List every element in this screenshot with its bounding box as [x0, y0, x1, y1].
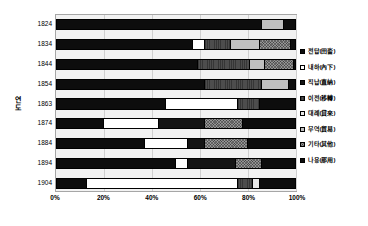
bar-segment-nayong [248, 138, 296, 149]
bar-segment-jeondap [56, 118, 104, 129]
stacked-bar [56, 98, 296, 109]
legend-swatch-nayong [300, 158, 305, 163]
stacked-bar [56, 59, 296, 70]
bar-segment-naeha [104, 118, 159, 129]
y-axis-tick-label: 1854 [24, 80, 52, 87]
bar-segment-muyeok [262, 19, 284, 30]
bar-segment-daerae [253, 178, 260, 189]
x-axis-tick-label: 60% [194, 194, 207, 201]
x-axis-tick-label: 100% [289, 194, 306, 201]
bar-segment-nayong [260, 98, 296, 109]
legend-swatch-jeondap [300, 49, 305, 54]
bar-segment-nayong [289, 79, 296, 90]
bar-segment-naeha [176, 158, 188, 169]
bar-segment-jeondap [56, 138, 145, 149]
bar-segment-ijeon [198, 59, 251, 70]
chart-container: 연 도 182418341844185418631874188418941904… [0, 0, 368, 226]
bar-segment-gita [260, 39, 291, 50]
legend-item-ijeon: 이전(移轉) [300, 91, 366, 107]
stacked-bar [56, 79, 296, 90]
bar-row [56, 35, 296, 55]
bar-row [56, 114, 296, 134]
y-axis-tick-label: 1824 [24, 20, 52, 27]
legend-swatch-jiknap [300, 80, 305, 85]
x-axis-tick-label: 20% [97, 194, 110, 201]
y-axis-tick-label: 1904 [24, 179, 52, 186]
bar-row [56, 173, 296, 193]
bar-segment-naeha [193, 39, 205, 50]
bar-segment-naeha [145, 138, 188, 149]
bar-segment-jiknap [188, 158, 236, 169]
legend-swatch-naeha [300, 65, 305, 70]
legend-item-muyeok: 무역(貿易) [300, 122, 366, 138]
gridline [296, 15, 297, 191]
y-axis-tick-label: 1874 [24, 119, 52, 126]
bar-segment-jeondap [56, 158, 176, 169]
bar-segment-nayong [291, 39, 296, 50]
bar-segment-nayong [260, 178, 296, 189]
bar-segment-nayong [284, 19, 296, 30]
legend: 전답(田畓)내하(內下)직납(直納)이전(移轉)대례(貸來)무역(貿易)기타(其… [300, 44, 366, 168]
legend-label-daerae: 대례(貸來) [308, 110, 336, 117]
bar-segment-muyeok [250, 59, 264, 70]
bar-segment-naeha [166, 98, 238, 109]
legend-item-jeondap: 전답(田畓) [300, 44, 366, 60]
legend-swatch-ijeon [300, 96, 305, 101]
bar-row [56, 74, 296, 94]
bar-segment-muyeok [262, 79, 288, 90]
bar-segment-gita [236, 158, 262, 169]
bar-segment-naeha [87, 178, 238, 189]
y-axis-title-char-2: 도 [11, 104, 25, 112]
legend-label-muyeok: 무역(貿易) [308, 126, 336, 133]
bar-segment-ijeon [238, 98, 260, 109]
y-axis-tick-label: 1894 [24, 159, 52, 166]
bar-segment-ijeon [205, 39, 231, 50]
stacked-bar [56, 138, 296, 149]
x-axis-tick-label: 40% [145, 194, 158, 201]
stacked-bar [56, 158, 296, 169]
bar-segment-ijeon [238, 178, 252, 189]
legend-label-gita: 기타(其他) [308, 141, 336, 148]
legend-label-nayong: 나용(那用) [308, 157, 336, 164]
stacked-bar [56, 178, 296, 189]
bar-segment-gita [265, 59, 294, 70]
bar-segment-jiknap [188, 138, 205, 149]
bar-row [56, 134, 296, 154]
y-axis-title: 연 도 [11, 96, 25, 112]
legend-label-jeondap: 전답(田畓) [308, 48, 336, 55]
y-axis-title-char-1: 연 [11, 96, 25, 104]
y-axis-tick-label: 1863 [24, 100, 52, 107]
legend-item-nayong: 나용(那用) [300, 153, 366, 169]
legend-label-ijeon: 이전(移轉) [308, 95, 336, 102]
bar-segment-ijeon [205, 79, 263, 90]
legend-item-naeha: 내하(內下) [300, 60, 366, 76]
y-axis-tick-label: 1884 [24, 139, 52, 146]
legend-item-gita: 기타(其他) [300, 137, 366, 153]
legend-item-jiknap: 직납(直納) [300, 75, 366, 91]
bar-row [56, 94, 296, 114]
bar-segment-jeondap [56, 178, 87, 189]
y-axis-tick-label: 1844 [24, 60, 52, 67]
y-axis-tick-label: 1834 [24, 40, 52, 47]
legend-swatch-gita [300, 142, 305, 147]
legend-swatch-muyeok [300, 127, 305, 132]
y-axis-category-labels: 182418341844185418631874188418941904 [24, 14, 52, 192]
x-axis-tick-label: 0% [50, 194, 59, 201]
bar-segment-nayong [262, 158, 296, 169]
stacked-bar [56, 19, 296, 30]
bar-segment-jeondap [56, 98, 166, 109]
bar-segment-jeondap [56, 39, 193, 50]
bar-segment-gita [205, 138, 248, 149]
bar-row [56, 153, 296, 173]
x-axis-tick-label: 80% [242, 194, 255, 201]
bar-row [56, 15, 296, 35]
bar-segment-jeondap [56, 79, 205, 90]
bar-row [56, 55, 296, 75]
bar-segment-muyeok [231, 39, 260, 50]
bar-segment-jeondap [56, 59, 198, 70]
legend-label-jiknap: 직납(直納) [308, 79, 336, 86]
bar-segment-nayong [243, 118, 296, 129]
bar-segment-jiknap [159, 118, 205, 129]
bar-segment-nayong [294, 59, 296, 70]
stacked-bar [56, 118, 296, 129]
